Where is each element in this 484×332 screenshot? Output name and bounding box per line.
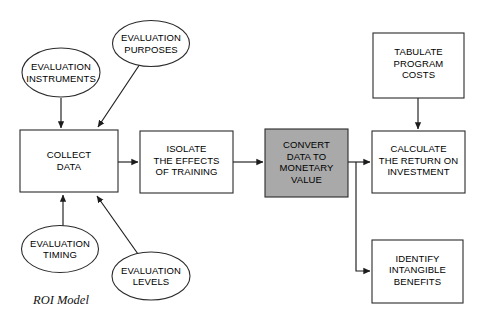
calculate-roi-line2: THE RETURN ON — [379, 155, 458, 166]
isolate-effects-line2: THE EFFECTS — [153, 155, 219, 166]
node-identify-intangible[interactable]: IDENTIFY INTANGIBLE BENEFITS — [372, 240, 463, 303]
node-evaluation-levels[interactable]: EVALUATION LEVELS — [112, 252, 190, 300]
evaluation-levels-line2: LEVELS — [133, 276, 170, 287]
isolate-effects-line1: ISOLATE — [166, 143, 206, 154]
edge-purposes-to-collect — [98, 64, 140, 127]
evaluation-timing-line1: EVALUATION — [30, 238, 90, 249]
node-evaluation-purposes[interactable]: EVALUATION PURPOSES — [113, 21, 190, 67]
node-evaluation-timing[interactable]: EVALUATION TIMING — [22, 226, 99, 273]
evaluation-timing-line2: TIMING — [43, 249, 77, 260]
calculate-roi-line3: INVESTMENT — [387, 166, 449, 177]
evaluation-purposes-line2: PURPOSES — [124, 44, 178, 55]
edge-convert-to-identify — [356, 162, 370, 271]
evaluation-instruments-line2: INSTRUMENTS — [26, 73, 96, 84]
convert-data-line2: DATA TO — [287, 151, 327, 162]
tabulate-costs-line3: COSTS — [402, 69, 435, 80]
identify-intangible-line3: BENEFITS — [394, 276, 441, 287]
identify-intangible-line1: IDENTIFY — [395, 253, 440, 264]
edge-levels-to-collect — [97, 196, 138, 254]
convert-data-line3: MONETARY — [280, 162, 334, 173]
evaluation-levels-line1: EVALUATION — [121, 265, 181, 276]
calculate-roi-line1: CALCULATE — [390, 143, 446, 154]
convert-data-line4: VALUE — [291, 174, 322, 185]
node-evaluation-instruments[interactable]: EVALUATION INSTRUMENTS — [22, 48, 100, 97]
evaluation-purposes-line1: EVALUATION — [121, 32, 181, 43]
roi-model-figure: EVALUATION INSTRUMENTS EVALUATION PURPOS… — [0, 0, 484, 332]
diagram-canvas: EVALUATION INSTRUMENTS EVALUATION PURPOS… — [0, 0, 484, 332]
collect-data-line1: COLLECT — [47, 149, 92, 160]
node-collect-data[interactable]: COLLECT DATA — [20, 130, 118, 192]
tabulate-costs-line2: PROGRAM — [394, 58, 444, 69]
figure-caption: ROI Model — [32, 293, 89, 307]
node-tabulate-costs[interactable]: TABULATE PROGRAM COSTS — [373, 33, 464, 98]
isolate-effects-line3: OF TRAINING — [155, 166, 217, 177]
identify-intangible-line2: INTANGIBLE — [389, 264, 446, 275]
evaluation-instruments-line1: EVALUATION — [31, 61, 91, 72]
tabulate-costs-line1: TABULATE — [394, 46, 443, 57]
node-convert-data[interactable]: CONVERT DATA TO MONETARY VALUE — [265, 129, 348, 197]
node-calculate-roi[interactable]: CALCULATE THE RETURN ON INVESTMENT — [372, 131, 465, 193]
node-isolate-effects[interactable]: ISOLATE THE EFFECTS OF TRAINING — [140, 131, 233, 193]
collect-data-line2: DATA — [57, 161, 82, 172]
convert-data-line1: CONVERT — [283, 139, 330, 150]
